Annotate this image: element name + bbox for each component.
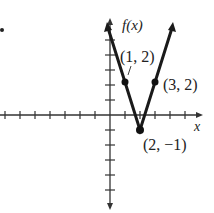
point-label-1-2: (1, 2) (120, 48, 155, 66)
label-leader-line (128, 66, 131, 75)
y-axis-label: f(x) (122, 17, 143, 34)
point-3-2 (152, 79, 159, 86)
bullet-icon (0, 28, 4, 32)
y-axis-arrow-down-icon (107, 203, 113, 210)
point-label-2-neg1: (2, −1) (143, 136, 187, 154)
curve-arrow-right-icon (168, 22, 176, 32)
point-label-3-2: (3, 2) (163, 76, 198, 94)
x-axis-label: x (193, 119, 201, 134)
point-2-neg1 (136, 126, 144, 134)
x-axis-arrow-icon (196, 112, 203, 118)
point-1-2 (122, 79, 129, 86)
absolute-value-graph: f(x) x (1, 2) (3, 2) (2, −1) (0, 0, 214, 213)
